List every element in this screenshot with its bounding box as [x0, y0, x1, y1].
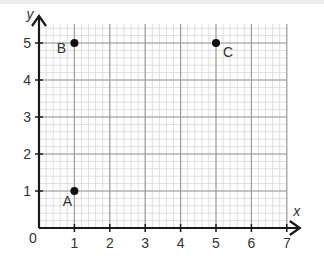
- y-tick-label: 5: [23, 35, 31, 51]
- x-tick-label: 7: [283, 235, 291, 251]
- point-c: [212, 39, 220, 47]
- point-label-b: B: [57, 40, 66, 56]
- point-b: [70, 39, 78, 47]
- origin-label: 0: [29, 230, 37, 246]
- x-tick-label: 2: [106, 235, 114, 251]
- x-tick-label: 1: [71, 235, 79, 251]
- x-tick-label: 4: [177, 235, 185, 251]
- y-tick-label: 3: [23, 109, 31, 125]
- major-grid: [39, 24, 287, 228]
- coordinate-grid: 1234567123450xy ABC: [0, 0, 324, 256]
- y-axis-label: y: [26, 6, 35, 22]
- x-tick-label: 5: [212, 235, 220, 251]
- x-axis-label: x: [292, 203, 301, 219]
- y-tick-label: 1: [23, 183, 31, 199]
- minor-grid: [39, 24, 287, 228]
- x-tick-label: 3: [141, 235, 149, 251]
- point-label-a: A: [63, 193, 73, 209]
- y-tick-label: 4: [23, 72, 31, 88]
- point-label-c: C: [223, 44, 233, 60]
- x-tick-label: 6: [248, 235, 256, 251]
- y-tick-label: 2: [23, 146, 31, 162]
- axes: [32, 16, 300, 235]
